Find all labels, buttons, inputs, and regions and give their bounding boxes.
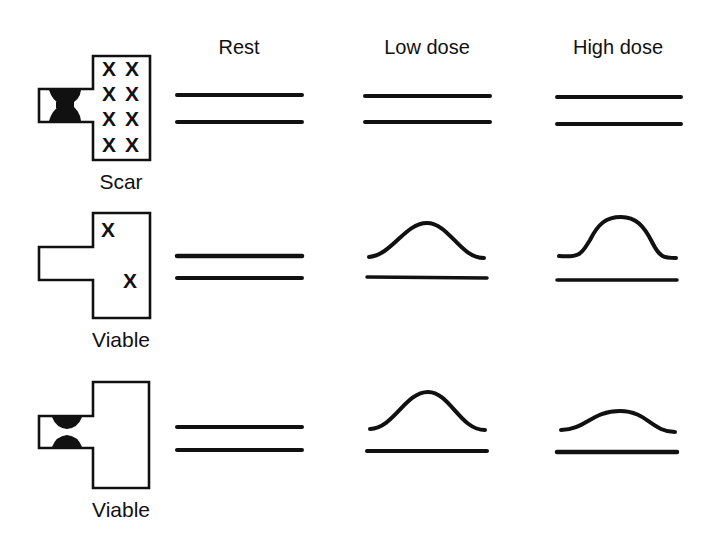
row-viable-1-highdose-trace (557, 217, 677, 280)
column-header-low-dose: Low dose (384, 36, 470, 58)
row-scar-rest-trace (177, 95, 302, 122)
diagram-canvas (0, 0, 711, 534)
scar-mark: X (125, 83, 139, 105)
stenosis-bottom-icon (52, 435, 82, 447)
scar-mark: X (102, 108, 116, 130)
row-viable-1-lowdose-trace (367, 223, 487, 278)
row-label-scar: Scar (99, 170, 142, 194)
row-label-viable-2: Viable (92, 498, 150, 522)
scar-mark: X (102, 58, 116, 80)
row-viable-2-highdose-trace (557, 411, 677, 452)
viable-segment-outline (39, 213, 150, 318)
row-scar-lowdose-trace (365, 96, 490, 122)
scar-mark: X (125, 58, 139, 80)
row-viable-1-rest-trace (177, 256, 302, 278)
column-header-rest: Rest (218, 36, 259, 58)
scar-mark: X (125, 108, 139, 130)
viable-mark: X (123, 270, 137, 292)
row-scar-highdose-trace (557, 97, 681, 124)
viable-stenosis-segment-outline (39, 382, 149, 488)
stenosis-top-icon (52, 417, 82, 429)
scar-mark: X (102, 134, 116, 156)
column-header-high-dose: High dose (573, 36, 663, 58)
row-viable-2-lowdose-trace (367, 392, 487, 451)
row-viable-2-rest-trace (177, 427, 302, 450)
scar-mark: X (125, 134, 139, 156)
row-label-viable-1: Viable (92, 328, 150, 352)
row-viable-1-segment-icon (39, 213, 150, 318)
row-viable-2-segment-icon (39, 382, 149, 488)
scar-mark: X (102, 83, 116, 105)
viable-mark: X (101, 219, 115, 241)
